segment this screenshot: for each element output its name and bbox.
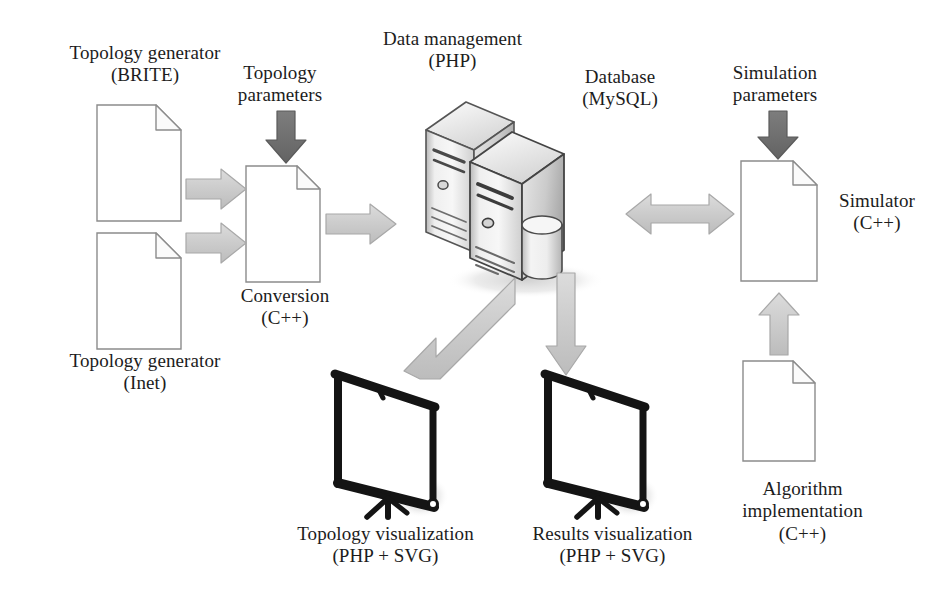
node-topology-visualization[interactable] bbox=[325, 365, 470, 520]
node-algorithm-implementation[interactable] bbox=[742, 360, 816, 462]
server-cluster-graphic bbox=[418, 84, 618, 304]
label-topology-visualization: Topology visualization (PHP + SVG) bbox=[268, 523, 503, 568]
node-results-visualization[interactable] bbox=[535, 365, 680, 520]
label-results-visualization: Results visualization (PHP + SVG) bbox=[505, 523, 720, 568]
label-simulator: Simulator (C++) bbox=[812, 190, 942, 235]
label-data-management: Data management (PHP) bbox=[345, 28, 560, 73]
document-icon bbox=[245, 165, 321, 283]
arrow-conversion-to-server bbox=[325, 203, 397, 245]
label-conversion: Conversion (C++) bbox=[220, 285, 350, 330]
database-cylinder-icon bbox=[522, 216, 562, 279]
node-conversion[interactable] bbox=[245, 165, 321, 283]
document-icon bbox=[96, 104, 182, 222]
arrow-server-to-results-viz bbox=[545, 272, 587, 376]
label-topology-generator-inet: Topology generator (Inet) bbox=[30, 350, 260, 395]
document-icon bbox=[96, 232, 182, 350]
label-topology-parameters: Topology parameters bbox=[215, 62, 345, 107]
database-server-icon bbox=[470, 132, 564, 280]
arrow-inet-to-conversion bbox=[185, 222, 247, 264]
arrow-brite-to-conversion bbox=[185, 168, 247, 210]
arrow-algorithm-to-simulator bbox=[758, 292, 800, 356]
label-algorithm-implementation: Algorithm implementation (C++) bbox=[715, 478, 890, 545]
arrow-server-to-topology-viz bbox=[398, 275, 516, 385]
document-icon bbox=[742, 360, 816, 462]
arrow-server-simulator bbox=[625, 190, 735, 238]
diagram-title: Network simulation platform architecture bbox=[0, 0, 1, 1]
diagram-canvas: Topology generator (BRITE) Topology gene… bbox=[0, 0, 950, 593]
node-topology-generator-brite[interactable] bbox=[96, 104, 182, 222]
label-simulation-parameters: Simulation parameters bbox=[705, 62, 845, 107]
document-icon bbox=[740, 160, 818, 282]
node-topology-generator-inet[interactable] bbox=[96, 232, 182, 350]
presentation-screen-icon bbox=[535, 365, 680, 520]
node-server-cluster[interactable] bbox=[418, 84, 618, 304]
presentation-screen-icon bbox=[325, 365, 470, 520]
node-simulator[interactable] bbox=[740, 160, 818, 282]
arrow-topology-parameters bbox=[265, 110, 307, 164]
arrow-simulation-parameters bbox=[757, 110, 799, 160]
